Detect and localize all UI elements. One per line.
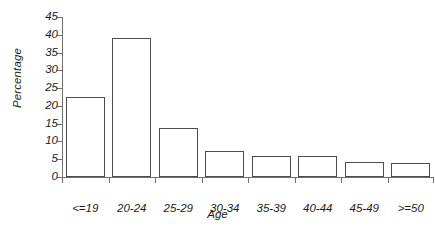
y-tick-label: 45	[45, 11, 58, 23]
y-tick-label: 20	[45, 100, 58, 112]
bar	[205, 151, 244, 177]
x-tick-mark	[248, 178, 249, 183]
plot-area: 051015202530354045 <=1920-2425-2930-3435…	[62, 17, 434, 178]
y-axis-title: Percentage	[11, 23, 23, 133]
bar	[66, 97, 105, 177]
y-tick-label: 40	[45, 29, 58, 41]
x-tick-mark	[155, 178, 156, 183]
y-tick-label: 30	[45, 65, 58, 77]
y-tick-label: 15	[45, 118, 58, 130]
bar	[252, 156, 291, 177]
x-tick-mark	[202, 178, 203, 183]
x-tick-mark	[109, 178, 110, 183]
bar-chart-figure: Percentage 051015202530354045 <=1920-242…	[0, 0, 435, 235]
y-tick-label: 0	[52, 171, 58, 183]
bar	[345, 162, 384, 177]
x-tick-mark	[388, 178, 389, 183]
bar	[298, 156, 337, 177]
y-tick-label: 5	[52, 153, 58, 165]
x-axis-title: Age	[0, 208, 435, 220]
y-tick-label: 35	[45, 47, 58, 59]
y-tick-label: 25	[45, 82, 58, 94]
bar	[112, 38, 151, 177]
bar	[159, 128, 198, 177]
bar	[391, 163, 430, 177]
x-tick-mark	[295, 178, 296, 183]
y-axis-line	[62, 17, 63, 178]
x-tick-mark	[341, 178, 342, 183]
x-tick-mark	[433, 178, 434, 183]
y-tick-label: 10	[45, 136, 58, 148]
x-tick-mark	[62, 178, 63, 183]
